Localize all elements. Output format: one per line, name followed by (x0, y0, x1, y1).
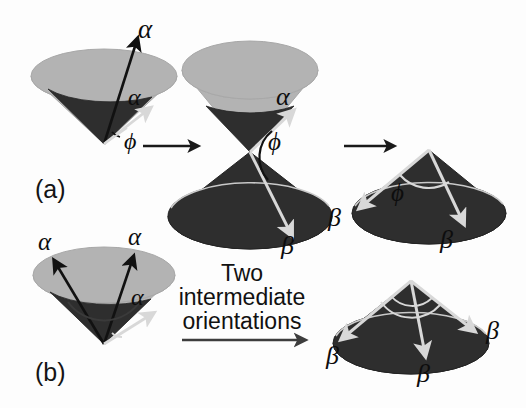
figure-vector-graphics (0, 0, 526, 408)
caption-line-1: Two (172, 262, 312, 286)
label-phi-a1: ϕ (124, 129, 136, 153)
label-beta-a3-right: β (440, 227, 453, 253)
cone-b2 (333, 281, 489, 374)
label-beta-b2-left: β (326, 343, 339, 369)
label-phi-a2: ϕ (268, 129, 281, 154)
cone-a3 (352, 150, 506, 244)
label-beta-b2-right: β (486, 318, 499, 344)
label-beta-a3-left: β (328, 205, 341, 231)
cone-a1-top-ellipse (31, 49, 177, 103)
cone-a2-top-ellipse (182, 41, 318, 99)
label-phi-a3: ϕ (391, 180, 404, 205)
cone-orientation-figure: α α ϕ α ϕ β ϕ β β α α α β β β (a) (b) Tw… (0, 0, 526, 408)
cone-a1 (31, 40, 177, 144)
transition-caption: Two intermediate orientations (172, 262, 312, 334)
caption-line-2: intermediate (172, 286, 312, 310)
label-alpha-a1-top: α (138, 16, 152, 43)
label-alpha-b1-inner: α (131, 285, 144, 309)
label-alpha-a1-inner: α (128, 85, 141, 109)
panel-label-b: (b) (35, 360, 66, 385)
label-alpha-a2: α (276, 84, 290, 110)
caption-line-3: orientations (172, 310, 312, 334)
label-beta-a2: β (281, 233, 294, 259)
panel-label-a: (a) (35, 177, 66, 202)
label-alpha-b1-left: α (38, 229, 51, 254)
label-beta-b2-center: β (417, 361, 430, 387)
cone-b1 (33, 247, 175, 344)
label-alpha-b1-top: α (128, 224, 141, 249)
